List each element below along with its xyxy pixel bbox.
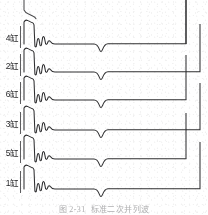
waveform-trace	[24, 135, 186, 166]
figure-root: 4缸2缸6缸3缸5缸1缸 图 2-31标准二次并列波	[0, 0, 208, 215]
cylinder-label: 6缸	[2, 90, 19, 99]
caption-number: 图 2-31	[59, 205, 86, 214]
trace-riser	[186, 24, 200, 72]
traces-group	[24, 0, 186, 197]
trace-riser	[186, 83, 200, 130]
cylinder-label: 4缸	[2, 34, 19, 43]
risers-group	[186, 0, 200, 189]
figure-caption: 图 2-31标准二次并列波	[0, 203, 208, 214]
waveform-trace	[24, 76, 186, 107]
cylinder-label: 5缸	[2, 149, 19, 158]
waveform-trace	[24, 106, 186, 137]
cylinder-label: 3缸	[2, 120, 19, 129]
waveform-plot	[0, 0, 208, 215]
trace-riser	[186, 142, 200, 189]
waveform-trace	[24, 20, 186, 51]
cylinder-label: 1缸	[2, 179, 19, 188]
waveform-trace	[24, 165, 186, 196]
cylinder-label: 2缸	[2, 62, 19, 71]
trace-partial-top	[24, 0, 36, 19]
waveform-trace	[24, 48, 186, 79]
caption-title: 标准二次并列波	[91, 205, 150, 214]
